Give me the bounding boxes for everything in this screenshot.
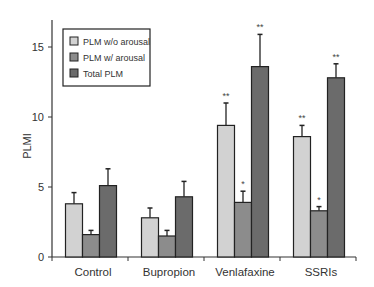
x-category-label: Venlafaxine — [215, 266, 274, 278]
bar — [100, 186, 117, 257]
bar — [294, 137, 311, 257]
bar — [235, 202, 252, 257]
legend-swatch — [70, 69, 78, 77]
legend-swatch — [70, 37, 78, 45]
legend-label: PLM w/o arousal — [83, 37, 150, 47]
bar — [176, 197, 193, 257]
significance-marker: ** — [256, 22, 264, 32]
bar — [159, 236, 176, 257]
x-category-label: Bupropion — [143, 266, 195, 278]
bar — [83, 235, 100, 257]
bar — [66, 204, 83, 257]
legend-label: Total PLM — [83, 69, 123, 79]
y-tick-label: 5 — [38, 181, 44, 193]
legend-label: PLM w/ arousal — [83, 53, 145, 63]
significance-marker: * — [241, 179, 245, 189]
bar — [218, 125, 235, 257]
bar — [252, 67, 269, 257]
bar — [328, 78, 345, 257]
bar — [311, 211, 328, 257]
significance-marker: * — [317, 195, 321, 205]
significance-marker: ** — [332, 52, 340, 62]
legend: PLM w/o arousalPLM w/ arousalTotal PLM — [63, 29, 150, 86]
bar — [142, 218, 159, 257]
y-tick-label: 15 — [32, 41, 44, 53]
x-category-label: Control — [74, 266, 111, 278]
y-axis-label: PLMI — [21, 133, 33, 159]
y-tick-label: 0 — [38, 251, 44, 263]
significance-marker: ** — [222, 91, 230, 101]
significance-marker: ** — [298, 113, 306, 123]
y-tick-label: 10 — [32, 111, 44, 123]
legend-swatch — [70, 53, 78, 61]
x-category-label: SSRIs — [305, 266, 338, 278]
bar-chart: 051015 ControlBupropion*****Venlafaxine*… — [0, 0, 374, 287]
